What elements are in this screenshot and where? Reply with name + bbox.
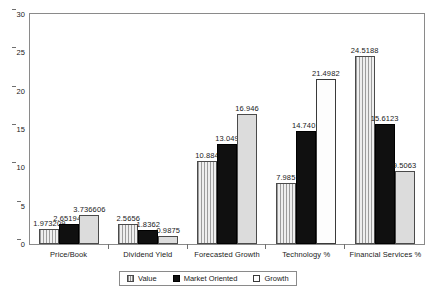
bar-group: 7.985 14.7401 21.4982 — [266, 14, 345, 244]
legend-label: Growth — [264, 274, 288, 283]
bar-growth-series[interactable]: 3.736606 — [79, 215, 99, 244]
x-axis-category-label: Financial Services % — [346, 250, 425, 259]
bar-slot: 9.5063 — [395, 14, 415, 244]
legend-swatch-icon — [127, 275, 134, 282]
bar-growth-series[interactable]: 21.4982 — [316, 79, 336, 244]
y-tick-mark — [12, 47, 16, 48]
bar-data-label: 3.736606 — [73, 205, 105, 214]
bar-slot: 24.5188 — [355, 14, 375, 244]
y-axis-tick: 0 — [21, 240, 30, 249]
bar-market-oriented-series[interactable]: 14.7401 — [296, 131, 316, 244]
bar-growth-series[interactable]: 0.9875 — [158, 236, 178, 244]
group-separator — [187, 244, 188, 249]
y-tick-mark — [12, 162, 16, 163]
x-axis-category-label: Price/Book — [29, 250, 108, 259]
bar-slot: 15.6123 — [375, 14, 395, 244]
y-axis-tick-label: 10 — [16, 163, 25, 172]
y-axis-tick: 20 — [16, 86, 30, 95]
bar-data-label: 10.884 — [195, 151, 219, 160]
bar-slot: 3.736606 — [79, 14, 99, 244]
y-axis-tick: 15 — [16, 125, 30, 134]
bar-data-label: 16.946 — [235, 104, 259, 113]
legend-item-growth[interactable]: Growth — [253, 274, 288, 283]
bar-value-series[interactable]: 1.973209 — [39, 229, 59, 244]
bar-group-bars: 10.884 13.049 16.946 — [188, 14, 267, 244]
bar-slot: 16.946 — [237, 14, 257, 244]
legend-item-value[interactable]: Value — [127, 274, 157, 283]
y-axis-tick-label: 25 — [16, 48, 25, 57]
legend-label: Market Oriented — [184, 274, 238, 283]
bar-data-label: 7.985 — [276, 173, 295, 182]
bar-value-series[interactable]: 2.5656 — [118, 224, 138, 244]
bar-group: 1.973209 2.651949 3.736606 — [30, 14, 109, 244]
bar-market-oriented-series[interactable]: 15.6123 — [375, 124, 395, 244]
bar-growth-series[interactable]: 16.946 — [237, 114, 257, 244]
y-axis-tick-label: 0 — [21, 240, 25, 249]
bar-market-oriented-series[interactable]: 2.651949 — [59, 224, 79, 244]
y-axis-tick: 5 — [21, 201, 30, 210]
bar-market-oriented-series[interactable]: 13.049 — [217, 144, 237, 244]
y-tick-mark — [12, 9, 16, 10]
y-tick-mark — [17, 239, 21, 240]
chart-legend: Value Market Oriented Growth — [119, 271, 297, 286]
plot-area: 0 5 10 15 20 25 30 1.973209 2.6 — [29, 13, 425, 245]
bar-chart: 0 5 10 15 20 25 30 1.973209 2.6 — [0, 0, 437, 295]
bar-value-series[interactable]: 7.985 — [276, 183, 296, 244]
x-axis-category-label: Dividend Yield — [108, 250, 187, 259]
bar-group-bars: 2.5656 1.8362 0.9875 — [109, 14, 188, 244]
y-axis-tick-label: 20 — [16, 86, 25, 95]
bar-data-label: 21.4982 — [312, 69, 340, 78]
y-axis-tick-label: 5 — [21, 201, 25, 210]
y-axis-tick: 25 — [16, 48, 30, 57]
x-axis-category-label: Forecasted Growth — [187, 250, 266, 259]
bar-data-label: 13.049 — [215, 134, 239, 143]
bar-group-bars: 1.973209 2.651949 3.736606 — [30, 14, 109, 244]
bar-market-oriented-series[interactable]: 1.8362 — [138, 230, 158, 244]
legend-item-market-oriented[interactable]: Market Oriented — [173, 274, 238, 283]
bar-growth-series[interactable]: 9.5063 — [395, 171, 415, 244]
bar-slot: 1.973209 — [39, 14, 59, 244]
y-axis-tick-label: 30 — [16, 10, 25, 19]
bar-group-bars: 7.985 14.7401 21.4982 — [266, 14, 345, 244]
bar-value-series[interactable]: 24.5188 — [355, 56, 375, 244]
y-axis-tick: 30 — [16, 10, 30, 19]
bar-group: 10.884 13.049 16.946 — [188, 14, 267, 244]
y-tick-mark — [12, 124, 16, 125]
bar-data-label: 9.5063 — [393, 161, 417, 170]
bar-slot: 21.4982 — [316, 14, 336, 244]
bar-group-bars: 24.5188 15.6123 9.5063 — [345, 14, 424, 244]
x-axis-category-label: Technology % — [267, 250, 346, 259]
y-axis-tick: 10 — [16, 163, 30, 172]
bar-slot: 10.884 — [197, 14, 217, 244]
bar-value-series[interactable]: 10.884 — [197, 161, 217, 244]
bar-group: 24.5188 15.6123 9.5063 — [345, 14, 424, 244]
bar-groups: 1.973209 2.651949 3.736606 — [30, 14, 424, 244]
group-separator — [344, 244, 345, 249]
bar-slot: 13.049 — [217, 14, 237, 244]
x-axis-labels: Price/Book Dividend Yield Forecasted Gro… — [29, 250, 425, 259]
legend-label: Value — [138, 274, 157, 283]
bar-group: 2.5656 1.8362 0.9875 — [109, 14, 188, 244]
legend-swatch-icon — [253, 275, 260, 282]
bar-slot: 1.8362 — [138, 14, 158, 244]
y-tick-mark — [17, 201, 21, 202]
y-axis-tick-label: 15 — [16, 125, 25, 134]
bar-slot: 14.7401 — [296, 14, 316, 244]
legend-swatch-icon — [173, 275, 180, 282]
bar-slot: 2.5656 — [118, 14, 138, 244]
bar-slot: 0.9875 — [158, 14, 178, 244]
bar-data-label: 0.9875 — [156, 226, 180, 235]
group-separator — [265, 244, 266, 249]
y-tick-mark — [12, 86, 16, 87]
group-separator — [108, 244, 109, 249]
